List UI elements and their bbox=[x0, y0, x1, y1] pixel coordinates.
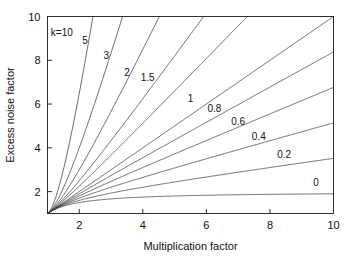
curve-label-1: 1 bbox=[188, 93, 194, 104]
x-axis-title: Multiplication factor bbox=[143, 240, 237, 252]
x-tick-label: 8 bbox=[267, 219, 273, 231]
x-tick-label: 10 bbox=[327, 219, 339, 231]
curve-label-3: 3 bbox=[104, 50, 110, 61]
curve-label-0.6: 0.6 bbox=[231, 116, 245, 127]
x-tick-label: 4 bbox=[140, 219, 146, 231]
chart-figure: 246810246810k=105321.510.80.60.40.20Mult… bbox=[0, 0, 349, 277]
x-tick-label: 2 bbox=[76, 219, 82, 231]
curve-k-0.8 bbox=[48, 52, 334, 214]
y-axis-title: Excess noise factor bbox=[4, 67, 16, 163]
curve-k-k=10 bbox=[48, 0, 228, 214]
excess-noise-factor-chart: 246810246810k=105321.510.80.60.40.20Mult… bbox=[0, 0, 349, 277]
curve-k-0.4 bbox=[48, 123, 334, 214]
x-tick-label: 6 bbox=[203, 219, 209, 231]
curve-label-5: 5 bbox=[82, 35, 88, 46]
y-tick-label: 10 bbox=[28, 11, 40, 23]
curve-label-1.5: 1.5 bbox=[141, 72, 155, 83]
curves-group bbox=[48, 0, 334, 214]
y-tick-label: 8 bbox=[34, 54, 40, 66]
curve-label-0: 0 bbox=[313, 177, 319, 188]
curve-label-0.4: 0.4 bbox=[252, 131, 266, 142]
curve-label-k=10: k=10 bbox=[51, 27, 73, 38]
curve-label-0.8: 0.8 bbox=[207, 103, 221, 114]
curve-label-2: 2 bbox=[124, 67, 130, 78]
y-tick-label: 4 bbox=[34, 142, 40, 154]
y-tick-label: 6 bbox=[34, 98, 40, 110]
curve-label-0.2: 0.2 bbox=[277, 149, 291, 160]
curve-k-0 bbox=[48, 194, 334, 214]
y-tick-label: 2 bbox=[34, 186, 40, 198]
